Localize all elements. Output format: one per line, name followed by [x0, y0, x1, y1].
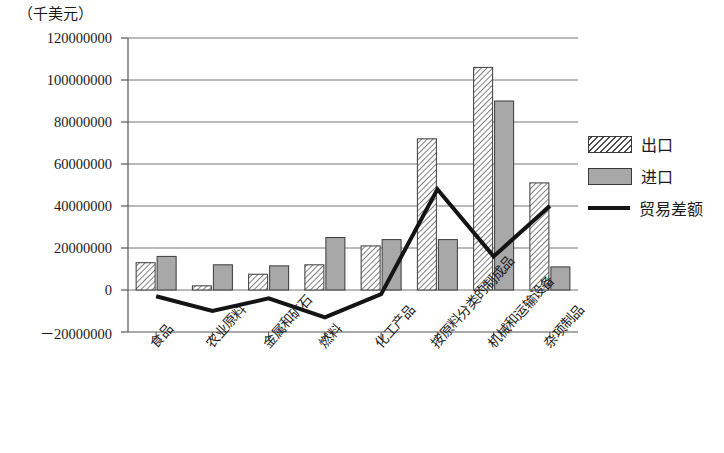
- legend-item-balance: 贸易差额: [588, 192, 724, 224]
- legend-label-balance: 贸易差额: [639, 196, 703, 220]
- hatched-rect-swatch: [588, 136, 632, 153]
- legend-item-export: 出口: [588, 128, 724, 160]
- black-line-swatch: [588, 201, 630, 216]
- legend-label-import: 进口: [641, 164, 673, 188]
- legend-item-import: 进口: [588, 160, 724, 192]
- trade-bar-chart: （千美元） 1200000001000000008000000060000000…: [0, 0, 724, 453]
- legend-label-export: 出口: [641, 132, 673, 156]
- plot-area: [0, 0, 724, 453]
- gray-rect-swatch: [588, 168, 632, 185]
- chart-legend: 出口 进口 贸易差额: [588, 128, 724, 224]
